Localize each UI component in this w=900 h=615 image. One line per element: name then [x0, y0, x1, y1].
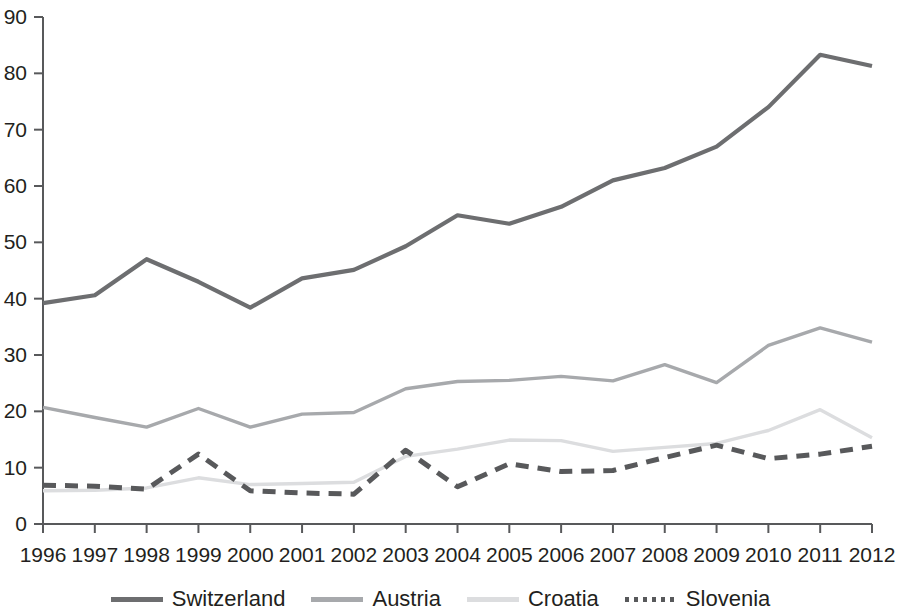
y-axis-tick-label: 90: [0, 6, 27, 27]
legend-label: Austria: [372, 587, 440, 611]
legend-label: Switzerland: [172, 587, 286, 611]
y-axis-tick-label: 70: [0, 119, 27, 140]
x-axis-tick-label: 2012: [844, 544, 900, 565]
x-axis-tick-label: 2001: [274, 544, 330, 565]
legend-swatch-icon: [625, 597, 677, 602]
y-axis-tick-label: 60: [0, 175, 27, 196]
y-axis-tick-label: 80: [0, 62, 27, 83]
x-axis-tick-label: 2002: [326, 544, 382, 565]
x-axis-tick-label: 1999: [170, 544, 226, 565]
legend-item-slovenia[interactable]: Slovenia: [625, 587, 770, 611]
x-axis-tick-label: 2005: [481, 544, 537, 565]
legend-swatch-icon: [311, 597, 363, 602]
x-axis-tick-label: 2011: [792, 544, 848, 565]
legend-item-austria[interactable]: Austria: [311, 587, 440, 611]
y-axis-tick-label: 40: [0, 288, 27, 309]
y-axis-tick-label: 50: [0, 231, 27, 252]
x-axis-tick-label: 2003: [378, 544, 434, 565]
legend-item-croatia[interactable]: Croatia: [467, 587, 599, 611]
x-axis-tick-label: 1996: [15, 544, 71, 565]
x-axis-tick-label: 1997: [67, 544, 123, 565]
chart-axes: [34, 17, 872, 533]
x-axis-tick-label: 2007: [585, 544, 641, 565]
legend-label: Croatia: [528, 587, 599, 611]
x-axis-tick-label: 1998: [119, 544, 175, 565]
series-line-croatia: [43, 410, 872, 491]
legend-label: Slovenia: [686, 587, 770, 611]
legend-item-switzerland[interactable]: Switzerland: [111, 587, 286, 611]
series-line-switzerland: [43, 55, 872, 308]
x-axis-tick-label: 2010: [740, 544, 796, 565]
x-axis-tick-label: 2009: [689, 544, 745, 565]
y-axis-tick-label: 10: [0, 457, 27, 478]
x-axis-tick-label: 2006: [533, 544, 589, 565]
x-axis-tick-label: 2004: [430, 544, 486, 565]
legend-swatch-icon: [467, 597, 519, 602]
series-line-slovenia: [43, 445, 872, 494]
x-axis-tick-label: 2008: [637, 544, 693, 565]
x-axis-tick-label: 2000: [222, 544, 278, 565]
y-axis-tick-label: 30: [0, 344, 27, 365]
series-line-austria: [43, 328, 872, 427]
chart-legend: SwitzerlandAustriaCroatiaSlovenia: [0, 583, 881, 615]
y-axis-tick-label: 0: [0, 513, 27, 534]
legend-swatch-icon: [111, 597, 163, 602]
y-axis-tick-label: 20: [0, 400, 27, 421]
